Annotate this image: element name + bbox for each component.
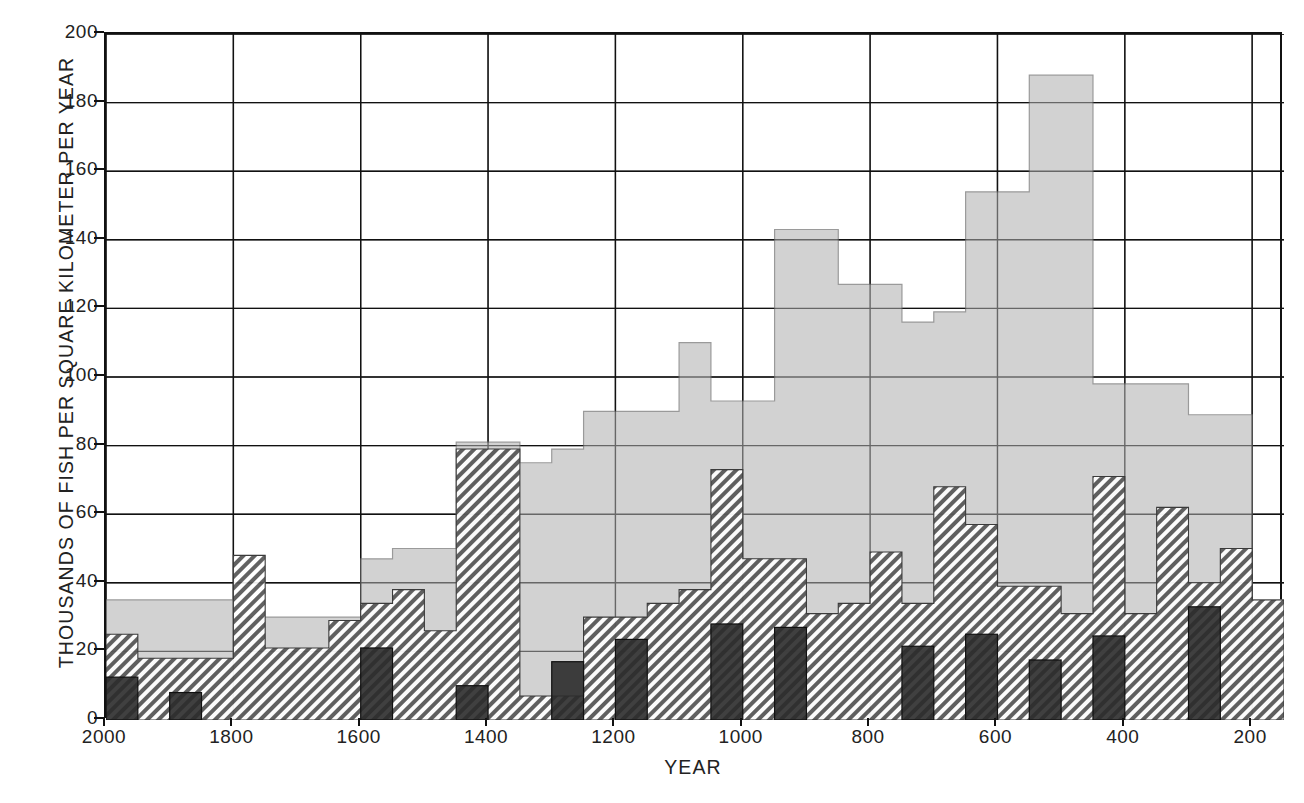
y-tick-label: 160 [40, 158, 98, 180]
y-tick-mark [94, 31, 104, 33]
bar-dark [1029, 660, 1061, 720]
x-tick-label: 1200 [553, 726, 673, 748]
x-tick-label: 1000 [681, 726, 801, 748]
y-tick-label: 20 [40, 638, 98, 660]
x-tick-mark [1122, 718, 1124, 726]
bar-dark [775, 627, 807, 720]
y-tick-label: 60 [40, 501, 98, 523]
y-tick-label: 40 [40, 570, 98, 592]
y-tick-mark [94, 374, 104, 376]
x-tick-mark [740, 718, 742, 726]
x-tick-label: 1800 [171, 726, 291, 748]
x-tick-mark [867, 718, 869, 726]
x-axis-tick-labels: 200018001600140012001000800600400200 [0, 726, 1304, 756]
y-axis-tick-labels: 020406080100120140160180200 [36, 0, 98, 803]
x-tick-mark [485, 718, 487, 726]
y-tick-mark [94, 305, 104, 307]
x-tick-label: 2000 [44, 726, 164, 748]
y-tick-label: 80 [40, 433, 98, 455]
y-tick-label: 200 [40, 21, 98, 43]
x-axis-label: YEAR [104, 756, 1282, 779]
bar-dark [711, 624, 743, 720]
x-tick-mark [358, 718, 360, 726]
bar-dark [170, 693, 202, 720]
x-tick-label: 200 [1190, 726, 1304, 748]
plot-canvas [106, 34, 1280, 716]
y-tick-label: 180 [40, 90, 98, 112]
y-tick-mark [94, 511, 104, 513]
x-tick-mark [1249, 718, 1251, 726]
y-tick-mark [94, 237, 104, 239]
bar-dark [106, 677, 138, 720]
x-tick-mark [230, 718, 232, 726]
bar-dark [1093, 636, 1125, 720]
x-tick-mark [994, 718, 996, 726]
chart-svg [106, 34, 1284, 720]
y-tick-label: 140 [40, 227, 98, 249]
bar-dark [361, 648, 393, 720]
x-tick-mark [103, 718, 105, 726]
x-tick-label: 1400 [426, 726, 546, 748]
y-tick-label: 100 [40, 364, 98, 386]
x-tick-mark [612, 718, 614, 726]
plot-area [104, 32, 1282, 718]
x-tick-label: 600 [935, 726, 1055, 748]
bar-dark [456, 686, 488, 720]
chart-figure: THOUSANDS OF FISH PER SQUARE KILOMETER P… [0, 0, 1304, 803]
y-tick-mark [94, 168, 104, 170]
bar-dark [902, 646, 934, 720]
y-tick-label: 120 [40, 295, 98, 317]
y-tick-mark [94, 443, 104, 445]
y-tick-mark [94, 580, 104, 582]
bar-dark [615, 639, 647, 720]
y-tick-mark [94, 648, 104, 650]
x-tick-label: 400 [1063, 726, 1183, 748]
x-tick-label: 800 [808, 726, 928, 748]
bar-dark [966, 634, 998, 720]
x-tick-label: 1600 [299, 726, 419, 748]
y-tick-mark [94, 100, 104, 102]
bar-dark [552, 662, 584, 720]
bar-dark [1188, 607, 1220, 720]
